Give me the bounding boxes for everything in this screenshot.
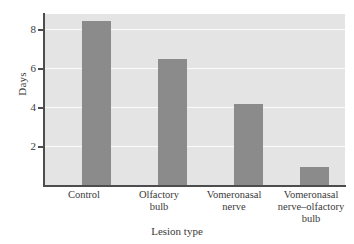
- x-tick-label-control: Control: [46, 189, 122, 201]
- bar-chart-figure: Days 8 6 4 2 Control Olfactory bulb Vome…: [0, 0, 354, 244]
- x-tick-label-line: Vomeronasal: [192, 189, 276, 201]
- plot-area: [44, 14, 345, 185]
- x-tick-label-vomeronasal-nerve-olfactory-bulb: Vomeronasal nerve–olfactory bulb: [268, 189, 354, 225]
- x-tick-label-line: nerve: [192, 201, 276, 213]
- x-axis-line: [43, 185, 346, 187]
- bar-vomeronasal-nerve-olfactory-bulb: [300, 167, 329, 185]
- x-tick-label-line: bulb: [120, 201, 198, 213]
- y-tick-6: [38, 68, 44, 70]
- x-axis-title: Lesion type: [0, 225, 354, 237]
- y-tick-2: [38, 146, 44, 148]
- x-tick-label-line: Control: [46, 189, 122, 201]
- y-tick-label-8: 8: [14, 24, 36, 35]
- bar-control: [82, 21, 111, 185]
- y-tick-4: [38, 107, 44, 109]
- y-axis-line: [43, 13, 45, 186]
- x-tick-label-line: Olfactory: [120, 189, 198, 201]
- x-tick-label-line: nerve–olfactory: [268, 201, 354, 213]
- x-tick-label-vomeronasal-nerve: Vomeronasal nerve: [192, 189, 276, 213]
- x-tick-label-line: Vomeronasal: [268, 189, 354, 201]
- y-tick-label-6: 6: [14, 63, 36, 74]
- bar-vomeronasal-nerve: [234, 104, 263, 185]
- y-tick-label-2: 2: [14, 141, 36, 152]
- x-tick-label-olfactory-bulb: Olfactory bulb: [120, 189, 198, 213]
- bar-olfactory-bulb: [158, 59, 187, 185]
- x-tick-label-line: bulb: [268, 213, 354, 225]
- y-tick-8: [38, 29, 44, 31]
- y-tick-label-4: 4: [14, 102, 36, 113]
